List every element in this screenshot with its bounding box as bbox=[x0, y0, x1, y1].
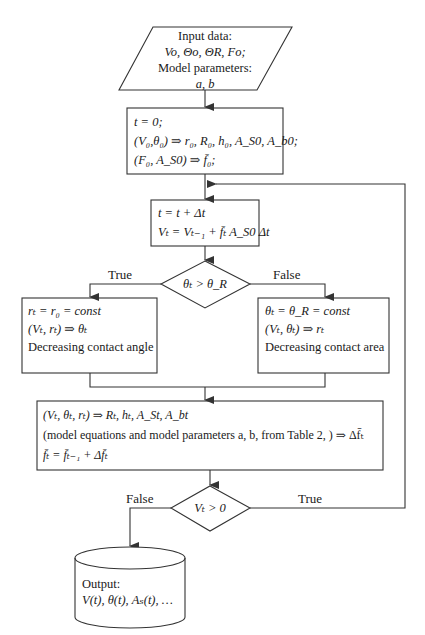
branch-true-line1: rₜ = r₀ = const bbox=[28, 302, 154, 320]
init-line2: (V₀,θ₀) ⇒ r₀, R₀, h₀, A_S0, A_b0; bbox=[134, 132, 298, 151]
update-line1: (Vₜ, θₜ, rₜ) ⇒ Rₜ, hₜ, A_St, A_bt bbox=[43, 405, 364, 425]
input-title: Input data: bbox=[135, 28, 275, 44]
decision2-condition: Vₜ > 0 bbox=[175, 500, 245, 516]
input-params: a, b bbox=[135, 76, 275, 92]
branch-false-line1: θₜ = θ_R = const bbox=[265, 302, 384, 320]
step-line1: t = t + Δt bbox=[158, 204, 270, 223]
update-line3: f̄ₜ = f̄ₜ₋₁ + Δf̄ₜ bbox=[43, 445, 364, 465]
branch-true-text: rₜ = r₀ = const (Vₜ, rₜ) ⇒ θₜ Decreasing… bbox=[28, 302, 154, 356]
connector-false-branch bbox=[250, 284, 325, 297]
branch-false-line3: Decreasing contact area bbox=[265, 338, 384, 356]
branch-false-text: θₜ = θ_R = const (Vₜ, θₜ) ⇒ rₜ Decreasin… bbox=[265, 302, 384, 356]
update-text: (Vₜ, θₜ, rₜ) ⇒ Rₜ, hₜ, A_St, A_bt (model… bbox=[43, 405, 364, 465]
step-text: t = t + Δt Vₜ = Vₜ₋₁ + f̄ₜ A_S0 Δt bbox=[158, 204, 270, 242]
output-values: V(t), θ(t), Aₛ(t), … bbox=[82, 592, 173, 608]
branch-true-line3: Decreasing contact angle bbox=[28, 338, 154, 356]
update-line2: (model equations and model parameters a,… bbox=[43, 425, 364, 445]
decision1-true-label: True bbox=[108, 268, 132, 282]
branch-false-line2: (Vₜ, θₜ) ⇒ rₜ bbox=[265, 320, 384, 338]
input-vars: Vo, Θo, ΘR, Fo; bbox=[135, 44, 275, 60]
decision2-true-label: True bbox=[298, 492, 322, 506]
output-text: Output: V(t), θ(t), Aₛ(t), … bbox=[82, 576, 173, 608]
init-text: t = 0; (V₀,θ₀) ⇒ r₀, R₀, h₀, A_S0, A_b0;… bbox=[134, 113, 298, 170]
step-line2: Vₜ = Vₜ₋₁ + f̄ₜ A_S0 Δt bbox=[158, 223, 270, 242]
connector-true-branch bbox=[90, 284, 161, 297]
connector-merge bbox=[90, 373, 325, 387]
decision1-false-label: False bbox=[273, 268, 300, 282]
branch-true-line2: (Vₜ, rₜ) ⇒ θₜ bbox=[28, 320, 154, 338]
decision2-false-label: False bbox=[126, 492, 153, 506]
output-title: Output: bbox=[82, 576, 173, 592]
decision1-condition: θₜ > θ_R bbox=[165, 276, 245, 292]
input-params-label: Model parameters: bbox=[135, 60, 275, 76]
init-line3: (F₀, A_S0) ⇒ f̄₀; bbox=[134, 151, 298, 170]
input-text: Input data: Vo, Θo, ΘR, Fo; Model parame… bbox=[135, 28, 275, 92]
connector-decision2-false bbox=[130, 508, 171, 546]
init-line1: t = 0; bbox=[134, 113, 298, 132]
